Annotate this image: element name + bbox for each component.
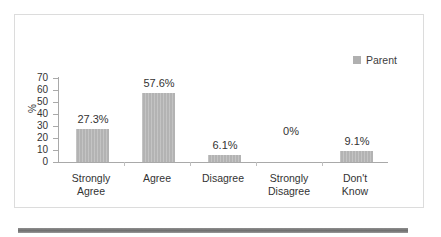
chart-frame: Parent xyxy=(14,14,424,208)
chart-legend: Parent xyxy=(353,55,397,66)
legend-label-parent: Parent xyxy=(366,55,397,66)
legend-swatch-parent xyxy=(353,56,361,64)
bottom-rule xyxy=(18,228,408,233)
